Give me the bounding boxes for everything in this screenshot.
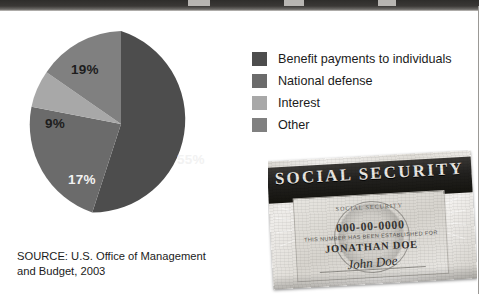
legend-item-defense[interactable]: National defense [252,70,477,92]
pie-chart: 55% 19% 9% 17% [27,30,215,220]
source-line-2: and Budget, 2003 [17,264,232,279]
legend-swatch-icon [252,118,267,132]
pie-label-benefit: 55% [177,152,205,167]
page-canvas: 55% 19% 9% 17% Benefit payments to indiv… [0,0,486,294]
page-edge-rule [478,6,479,294]
pie-label-other: 19% [71,62,99,77]
legend-label: National defense [278,74,373,88]
legend-swatch-icon [252,52,267,66]
legend-swatch-icon [252,74,267,88]
social-security-card-photo: SOCIAL SECURITY SOCIAL SECURITY 000-00-0… [268,150,477,294]
page-right-margin [479,0,486,294]
legend-item-benefit[interactable]: Benefit payments to individuals [252,48,477,70]
source-note: SOURCE: U.S. Office of Management and Bu… [17,249,232,278]
legend-label: Other [278,118,310,132]
legend-label: Benefit payments to individuals [278,52,452,66]
legend-swatch-icon [252,96,267,110]
chart-legend: Benefit payments to individuals National… [252,48,477,136]
legend-label: Interest [278,96,320,110]
source-line-1: SOURCE: U.S. Office of Management [17,249,232,264]
pie-label-defense: 17% [68,172,96,187]
pie-label-interest: 9% [45,116,65,131]
scan-top-band [0,0,486,11]
legend-item-interest[interactable]: Interest [252,92,477,114]
card-rotation-wrapper: SOCIAL SECURITY SOCIAL SECURITY 000-00-0… [268,150,477,289]
legend-item-other[interactable]: Other [252,114,477,136]
